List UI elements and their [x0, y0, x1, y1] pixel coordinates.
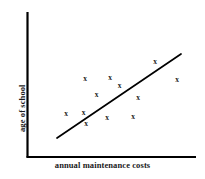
data-point-marker: x	[83, 74, 87, 83]
data-point-marker: x	[175, 75, 179, 84]
data-point-marker: x	[118, 81, 122, 90]
data-point-marker: x	[64, 109, 68, 118]
scatter-chart: x x x x x x x x x x x x annual maintenan…	[0, 0, 205, 179]
plot-area: x x x x x x x x x x x x	[0, 0, 205, 179]
data-point-marker: x	[82, 108, 86, 117]
trendline	[57, 54, 181, 138]
trendline-segment	[57, 54, 181, 138]
data-point-marker: x	[105, 113, 109, 122]
data-point-marker: x	[84, 119, 88, 128]
data-point-marker: x	[131, 112, 135, 121]
data-point-marker: x	[95, 90, 99, 99]
y-axis-label: age of school	[17, 84, 27, 132]
axes	[27, 12, 197, 158]
data-point-marker: x	[153, 57, 157, 66]
data-point-marker: x	[108, 73, 112, 82]
x-axis-label: annual maintenance costs	[0, 160, 205, 170]
data-point-marker: x	[136, 93, 140, 102]
